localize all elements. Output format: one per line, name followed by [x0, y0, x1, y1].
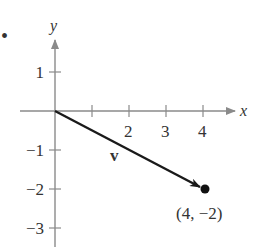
- vector-v-label: v: [110, 146, 119, 165]
- y-tick-label-1: 1: [36, 63, 45, 82]
- y-tick-label-neg1: −1: [26, 141, 44, 160]
- vector-diagram: • x y 2 3 4 1 −1 −2 −3 v (4, −2): [0, 0, 258, 247]
- endpoint-dot: [201, 185, 210, 194]
- y-tick-label-neg3: −3: [26, 219, 44, 238]
- x-tick-label-2: 2: [124, 122, 133, 141]
- y-axis-label: y: [48, 17, 58, 35]
- y-tick-label-neg2: −2: [26, 180, 44, 199]
- endpoint-label: (4, −2): [176, 204, 222, 223]
- x-tick-label-3: 3: [161, 122, 170, 141]
- bullet-marker: •: [1, 25, 8, 47]
- x-axis-label: x: [239, 102, 247, 119]
- x-tick-label-4: 4: [198, 122, 207, 141]
